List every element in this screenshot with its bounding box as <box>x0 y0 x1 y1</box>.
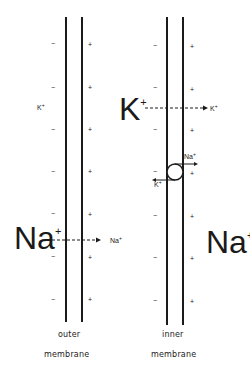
membrane-diagram <box>0 0 250 371</box>
inner-plus-sign: + <box>190 213 194 220</box>
outer-minus-sign: − <box>51 40 55 47</box>
outer-plus-sign: + <box>88 41 92 48</box>
k-arrow-head <box>203 106 208 111</box>
pump-k-label: K+ <box>154 181 162 188</box>
inner-membrane-caption-2: membrane <box>151 351 196 359</box>
k-ion-label-large: K+ <box>119 93 147 125</box>
outer-plus-sign: + <box>88 84 92 91</box>
pump-na-arrow-head <box>194 162 198 166</box>
outer-plus-sign: + <box>88 211 92 218</box>
k-ion-label-small: K+ <box>37 104 45 111</box>
outer-plus-sign: + <box>88 168 92 175</box>
inner-plus-sign: + <box>190 170 194 177</box>
inner-plus-sign: + <box>190 86 194 93</box>
inner-plus-sign: + <box>190 298 194 305</box>
inner-minus-sign: − <box>153 297 157 304</box>
inner-plus-sign: + <box>190 127 194 134</box>
outer-minus-sign: − <box>51 168 55 175</box>
outer-membrane-caption-1: outer <box>58 331 80 339</box>
inner-minus-sign: − <box>153 254 157 261</box>
outer-plus-sign: + <box>88 254 92 261</box>
inner-minus-sign: − <box>153 84 157 91</box>
inner-plus-sign: + <box>190 255 194 262</box>
na-k-pump-icon <box>167 164 183 180</box>
pump-na-label: Na+ <box>184 153 196 160</box>
outer-plus-sign: + <box>88 296 92 303</box>
inner-minus-sign: − <box>153 168 157 175</box>
outer-minus-sign: − <box>51 296 55 303</box>
outer-minus-sign: − <box>51 84 55 91</box>
outer-minus-sign: − <box>51 126 55 133</box>
na-ion-target-label: Na+ <box>110 237 122 244</box>
outer-membrane-caption-2: membrane <box>44 351 89 359</box>
na-ion-label-large-right: Na+ <box>206 226 250 258</box>
na-ion-label-large-left: Na+ <box>14 222 61 254</box>
outer-plus-sign: + <box>88 126 92 133</box>
na-arrow-head <box>96 238 101 243</box>
inner-minus-sign: − <box>153 42 157 49</box>
inner-membrane-caption-1: inner <box>162 331 184 339</box>
outer-minus-sign: − <box>51 210 55 217</box>
k-ion-target-label: K+ <box>210 105 218 112</box>
inner-minus-sign: − <box>153 212 157 219</box>
inner-minus-sign: − <box>153 126 157 133</box>
inner-plus-sign: + <box>190 43 194 50</box>
